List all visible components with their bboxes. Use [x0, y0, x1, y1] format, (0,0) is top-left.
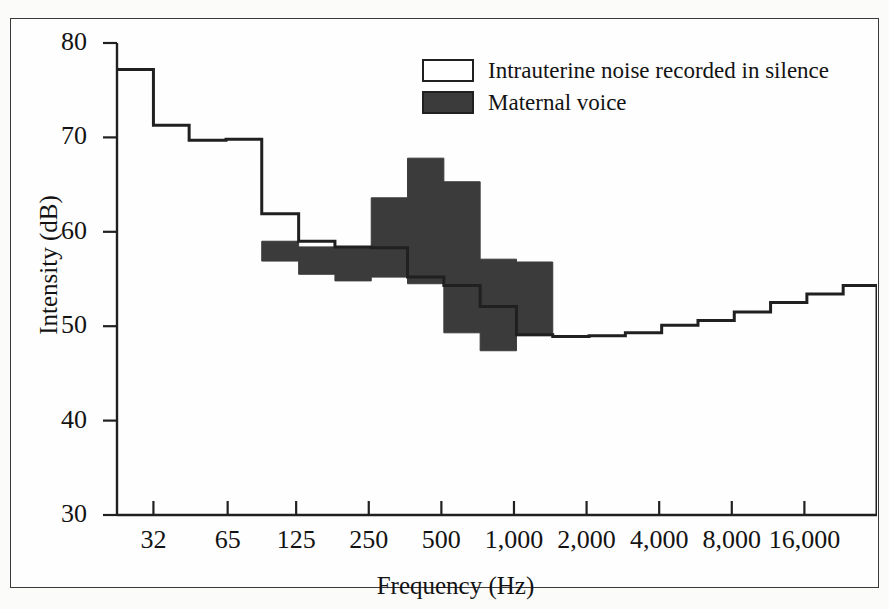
chart-frame: 304050607080 32651252505001,0002,0004,00…	[10, 18, 879, 588]
chart-legend: Intrauterine noise recorded in silence M…	[422, 55, 829, 119]
x-tick-label: 250	[349, 525, 388, 555]
y-tick-label: 40	[27, 405, 87, 435]
legend-item-intrauterine-noise: Intrauterine noise recorded in silence	[422, 55, 829, 85]
y-tick-label: 70	[27, 121, 87, 151]
x-tick-label: 1,000	[485, 525, 544, 555]
figure-container: 304050607080 32651252505001,0002,0004,00…	[0, 0, 889, 609]
x-tick-label: 65	[215, 525, 241, 555]
x-tick-label: 4,000	[630, 525, 689, 555]
y-tick-label: 30	[27, 499, 87, 529]
legend-swatch-hollow-icon	[422, 59, 474, 82]
x-tick-label: 16,000	[769, 525, 841, 555]
x-tick-label: 500	[422, 525, 461, 555]
y-axis-title: Intensity (dB)	[35, 165, 63, 365]
x-axis-title: Frequency (Hz)	[11, 572, 889, 600]
x-tick-label: 2,000	[557, 525, 616, 555]
x-tick-label: 8,000	[703, 525, 762, 555]
legend-label-maternal-voice: Maternal voice	[488, 91, 627, 114]
legend-item-maternal-voice: Maternal voice	[422, 87, 829, 117]
x-tick-marks	[153, 501, 804, 515]
legend-swatch-filled-icon	[422, 91, 474, 114]
x-tick-label: 32	[140, 525, 166, 555]
x-tick-label: 125	[277, 525, 316, 555]
y-tick-marks	[103, 43, 117, 515]
legend-label-intrauterine-noise: Intrauterine noise recorded in silence	[488, 59, 829, 82]
y-tick-label: 80	[27, 27, 87, 57]
